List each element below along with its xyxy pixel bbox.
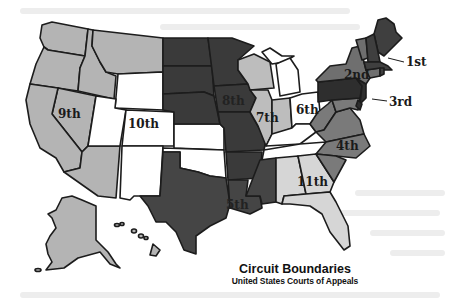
label-sixth-circuit: 6th <box>296 103 319 117</box>
label-first-circuit: 1st <box>406 55 427 69</box>
map-caption: Circuit Boundaries United States Courts … <box>210 262 380 287</box>
label-second-circuit: 2nd <box>344 68 370 82</box>
state-hawaii-island-3 <box>132 229 137 233</box>
state-hawaii-island-4 <box>139 234 144 238</box>
state-hawaii-big-island <box>150 244 160 256</box>
state-rhode-island <box>380 68 384 76</box>
label-ninth-circuit: 9th <box>58 107 81 121</box>
state-new-mexico <box>120 146 163 200</box>
state-hawaii-island-2 <box>120 223 124 226</box>
label-third-circuit: 3rd <box>389 95 413 109</box>
state-wyoming <box>115 72 163 110</box>
state-alaska <box>46 196 120 270</box>
label-seventh-circuit: 7th <box>256 111 279 125</box>
state-montana <box>92 30 163 74</box>
first-circuit-region <box>364 18 402 76</box>
state-south-dakota <box>163 66 214 96</box>
state-kansas <box>174 124 224 150</box>
label-eighth-circuit: 8th <box>222 94 245 108</box>
leader-line-1st <box>388 58 404 62</box>
label-fifth-circuit: 5th <box>226 198 249 212</box>
state-florida <box>282 192 350 250</box>
label-eleventh-circuit: 11th <box>297 175 328 189</box>
state-hawaii-island-1 <box>115 224 120 227</box>
state-hawaii-island-5 <box>144 237 148 240</box>
state-north-dakota <box>163 38 212 66</box>
caption-title: Circuit Boundaries <box>210 262 380 276</box>
us-circuit-map: 9th 10th 8th 7th 6th 2nd 1st 3rd 4th 5th… <box>0 0 450 305</box>
state-michigan-lower <box>276 58 300 96</box>
label-tenth-circuit: 10th <box>128 117 159 131</box>
label-fourth-circuit: 4th <box>336 139 359 153</box>
leader-line-3rd <box>372 99 387 101</box>
state-alaska-island <box>35 269 41 272</box>
caption-subtitle: United States Courts of Appeals <box>210 276 380 287</box>
